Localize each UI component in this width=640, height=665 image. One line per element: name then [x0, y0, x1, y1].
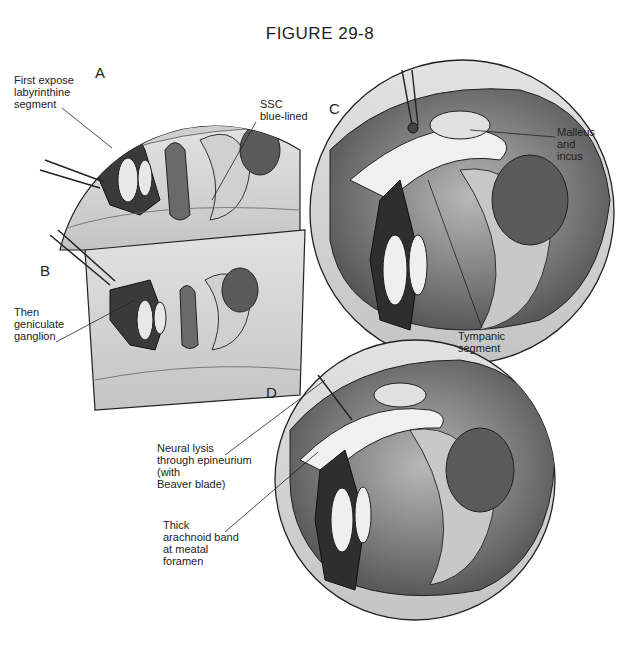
panel-c-illustration	[310, 60, 614, 364]
label-tympanic: Tympanic segment	[458, 330, 505, 354]
panel-b-illustration	[50, 230, 305, 410]
label-neural-lysis: Neural lysis through epineurium (with Be…	[157, 442, 252, 490]
panel-d-illustration	[275, 340, 555, 620]
figure-illustration	[0, 0, 640, 665]
label-first-expose: First expose labyrinthine segment	[14, 74, 74, 110]
label-ssc: SSC blue-lined	[260, 98, 308, 122]
label-arachnoid: Thick arachnoid band at meatal foramen	[163, 519, 239, 567]
panel-letter-a: A	[95, 64, 105, 81]
panel-letter-c: C	[329, 100, 340, 117]
label-malleus-incus: Malleus and incus	[557, 126, 595, 162]
label-geniculate: Then geniculate ganglion	[14, 306, 64, 342]
panel-letter-d: D	[266, 384, 277, 401]
panel-letter-b: B	[40, 262, 50, 279]
